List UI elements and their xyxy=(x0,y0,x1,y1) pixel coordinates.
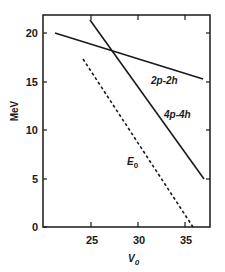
plot-frame xyxy=(43,15,210,227)
x-axis-label: V0 xyxy=(128,253,140,267)
y-tick-label: 15 xyxy=(26,76,38,88)
x-tick-label: 35 xyxy=(180,234,192,246)
x-tick-label: 25 xyxy=(86,234,98,246)
label-2p-2h: 2p-2h xyxy=(150,75,178,86)
y-tick-label: 20 xyxy=(26,27,38,39)
chart: 0 5 10 15 20 MeV 25 30 35 V0 2p-2h 4p-4h… xyxy=(0,0,225,272)
label-4p-4h: 4p-4h xyxy=(163,109,191,120)
y-tick-label: 10 xyxy=(26,124,38,136)
line-4p-4h xyxy=(90,20,204,179)
y-axis-label: MeV xyxy=(9,100,20,121)
line-2p-2h xyxy=(55,33,203,79)
y-tick-label: 0 xyxy=(32,221,38,233)
x-tick-label: 30 xyxy=(133,234,145,246)
series-lines xyxy=(55,20,204,227)
y-axis: 0 5 10 15 20 MeV xyxy=(9,27,210,233)
label-e0: E0 xyxy=(127,156,139,170)
y-tick-label: 5 xyxy=(32,173,38,185)
